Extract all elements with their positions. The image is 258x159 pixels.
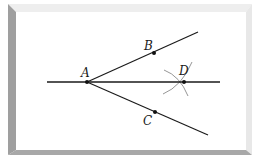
frame-top-edge [8,4,252,12]
diagram-frame: A B C D [0,0,258,159]
point-d [182,80,186,84]
label-d: D [178,64,189,78]
point-a [85,80,89,84]
diagram-canvas: A B C D [0,0,258,159]
label-a: A [80,66,90,80]
frame-right-edge [246,4,252,155]
frame-left-edge [8,4,16,155]
label-b: B [143,39,153,53]
label-c: C [143,114,152,128]
frame-bottom-edge [8,150,252,155]
diagram-panel [16,12,246,150]
point-c [153,110,157,114]
